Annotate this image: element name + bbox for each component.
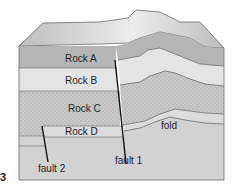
fault-1-label: fault 1 <box>115 155 143 166</box>
rock-b-label: Rock B <box>65 75 98 86</box>
fold-label: fold <box>161 120 177 131</box>
rock-c-layer-fault2-block <box>19 126 43 136</box>
rock-c-label: Rock C <box>68 103 101 114</box>
figure-number: 3 <box>0 171 6 183</box>
rock-d-label: Rock D <box>65 126 98 137</box>
fault-2-label: fault 2 <box>38 163 66 174</box>
rock-a-label: Rock A <box>65 53 97 64</box>
geologic-block-diagram: Rock A Rock B Rock C Rock D fold fault 1… <box>0 0 234 191</box>
